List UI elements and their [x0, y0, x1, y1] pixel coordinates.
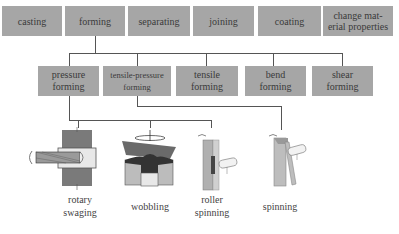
box-shear-forming-label: shear forming	[326, 69, 358, 93]
box-pressure-forming-label: pressure forming	[52, 69, 85, 93]
connector-to-shear	[342, 53, 343, 66]
caption-spinning: spinning	[254, 200, 306, 213]
box-bend-forming-label: bend forming	[259, 69, 291, 93]
box-joining-label: joining	[209, 16, 237, 27]
connector-pressure-down	[69, 96, 70, 120]
connector-pressure-horizontal	[69, 120, 212, 121]
caption-roller-spinning: roller spinning	[186, 193, 238, 219]
box-pressure-forming: pressure forming	[38, 66, 99, 96]
box-tensile-forming-label: tensile forming	[191, 69, 223, 93]
caption-rotary-swaging: rotary swaging	[52, 193, 108, 219]
connector-to-wobbling	[150, 120, 151, 128]
rotary-swaging-icon	[26, 130, 106, 190]
box-forming-label: forming	[79, 16, 111, 27]
connector-tensile-pressure-down	[137, 96, 138, 106]
connector-to-pressure	[69, 53, 70, 66]
box-tensile-pressure-forming-label: tensile-pressure forming	[110, 69, 163, 93]
box-casting-label: casting	[18, 16, 46, 27]
wobbling-icon	[118, 133, 178, 188]
roller-spinning-icon	[192, 132, 242, 192]
box-tensile-pressure-forming: tensile-pressure forming	[103, 66, 171, 96]
connector-to-roller-spinning	[211, 120, 212, 128]
box-casting: casting	[2, 6, 62, 36]
connector-to-tensile-pressure	[137, 53, 138, 66]
connector-to-tensile	[206, 53, 207, 66]
connector-tensile-pressure-horizontal	[137, 106, 282, 107]
box-separating: separating	[128, 6, 190, 36]
box-coating-label: coating	[275, 16, 304, 27]
box-bend-forming: bend forming	[245, 66, 306, 96]
box-forming: forming	[65, 6, 125, 36]
box-tensile-forming: tensile forming	[176, 66, 238, 96]
box-joining: joining	[193, 6, 254, 36]
box-coating: coating	[258, 6, 321, 36]
box-separating-label: separating	[138, 16, 179, 27]
box-change-material-properties-label: change mat- erial properties	[328, 10, 388, 32]
connector-to-spinning	[281, 106, 282, 130]
connector-forming-down	[95, 36, 96, 53]
box-shear-forming: shear forming	[312, 66, 373, 96]
connector-to-bend	[273, 53, 274, 66]
connector-to-rotary-swaging	[78, 120, 79, 128]
caption-wobbling: wobbling	[120, 200, 180, 213]
spinning-icon	[266, 132, 321, 192]
box-change-material-properties: change mat- erial properties	[323, 6, 393, 36]
